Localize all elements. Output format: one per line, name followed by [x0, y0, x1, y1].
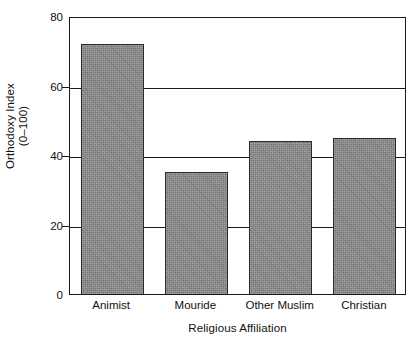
y-tick-label-text: 0: [57, 289, 69, 301]
x-axis-ticks: AnimistMourideOther MuslimChristian: [69, 299, 406, 317]
x-tick-label: Other Muslim: [238, 299, 322, 312]
y-tick-label: 20: [0, 219, 69, 233]
y-tick-label-text: 40: [50, 150, 69, 162]
bar: [249, 141, 312, 294]
x-tick-label: Mouride: [153, 299, 237, 312]
x-tick-label: Animist: [69, 299, 153, 312]
x-tick-label: Christian: [322, 299, 406, 312]
y-tick-label-text: 60: [50, 81, 69, 93]
y-axis-title-line-1: Orthodoxy Index: [4, 83, 17, 169]
x-axis-title: Religious Affiliation: [69, 322, 406, 334]
plot-area: [69, 17, 406, 295]
bar: [333, 138, 396, 294]
y-axis-title-line-2: (0–100): [17, 106, 30, 146]
y-tick-label-text: 20: [50, 220, 69, 232]
bar-chart-figure: Orthodoxy Index (0–100) 806040200 Animis…: [0, 0, 417, 349]
bar: [165, 172, 228, 294]
y-tick-mark: [62, 156, 69, 157]
y-tick-label: 80: [0, 10, 69, 24]
y-tick-label-text: 80: [50, 11, 69, 23]
bar: [81, 44, 144, 294]
y-tick-mark: [62, 87, 69, 88]
y-tick-label: 0: [0, 288, 69, 302]
y-tick-mark: [62, 226, 69, 227]
y-axis-title: Orthodoxy Index (0–100): [1, 71, 33, 181]
